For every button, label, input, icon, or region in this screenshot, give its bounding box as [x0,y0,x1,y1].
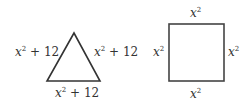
exponent: 2 [160,45,164,53]
square-top-label: x2 [190,7,201,19]
exponent: 2 [235,45,239,53]
triangle-right-label: x2 + 12 [94,46,138,58]
variable: x [15,45,22,59]
square-left-label: x2 [153,46,164,58]
square-shape [169,24,224,81]
exponent: 2 [197,6,201,14]
variable: x [153,45,160,59]
addend: + 12 [105,45,138,59]
exponent: 2 [197,87,201,95]
variable: x [190,87,197,101]
addend: + 12 [26,45,59,59]
variable: x [190,6,197,20]
variable: x [94,45,101,59]
square-bottom-label: x2 [190,88,201,100]
variable: x [228,45,235,59]
square-right-label: x2 [228,46,239,58]
triangle-bottom-label: x2 + 12 [55,87,99,99]
variable: x [55,86,62,100]
addend: + 12 [66,86,99,100]
triangle-left-label: x2 + 12 [15,46,59,58]
